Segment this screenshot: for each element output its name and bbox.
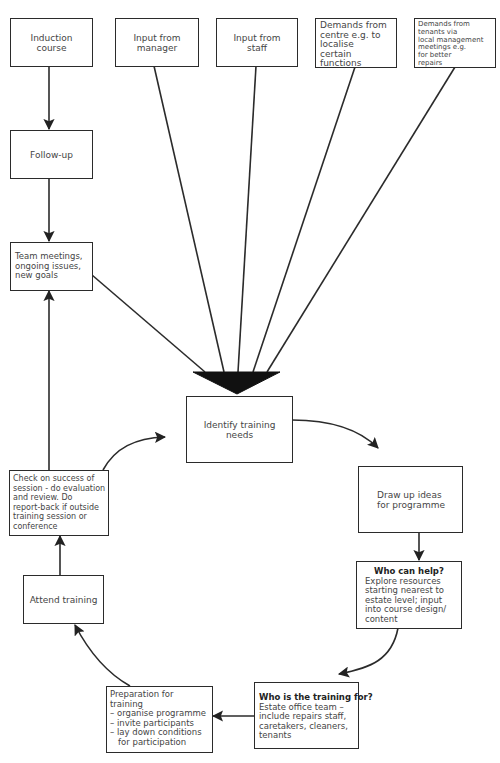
followup-line-1: Follow-up bbox=[30, 150, 73, 160]
box-input-from-staff: Input from staff bbox=[216, 18, 298, 67]
box-who-can-help: Who can help? Explore resources starting… bbox=[356, 561, 462, 629]
induction-line-1: Induction bbox=[31, 33, 73, 43]
line-manager-to-funnel bbox=[154, 66, 224, 372]
draw-line-2: for programme bbox=[377, 500, 445, 510]
induction-line-2: course bbox=[36, 43, 66, 53]
centre-line-5: functions bbox=[320, 59, 392, 69]
identify-line-2: needs bbox=[226, 430, 253, 440]
arrow-whohelp-to-whofor bbox=[339, 628, 398, 674]
arrow-identify-to-draw bbox=[292, 420, 378, 448]
box-who-is-training-for: Who is the training for? Estate office t… bbox=[254, 682, 359, 749]
box-draw-up-ideas: Draw up ideas for programme bbox=[358, 466, 463, 533]
check-line-1: Check on success of bbox=[13, 474, 105, 484]
check-line-3: and review. Do bbox=[13, 493, 105, 503]
check-line-4: report-back if outside bbox=[13, 503, 105, 513]
line-tenants-to-funnel bbox=[267, 67, 455, 372]
draw-line-1: Draw up ideas bbox=[377, 490, 442, 500]
team-line-3: new goals bbox=[15, 271, 88, 281]
box-attend-training: Attend training bbox=[23, 575, 104, 624]
box-demands-from-tenants: Demands from tenants via local managemen… bbox=[414, 18, 496, 68]
box-follow-up: Follow-up bbox=[10, 130, 93, 179]
funnel-triangle bbox=[193, 372, 280, 394]
tenants-line-6: repairs bbox=[418, 60, 492, 68]
arrow-check-to-identify bbox=[103, 437, 165, 470]
whohelp-line-5: content bbox=[365, 615, 453, 625]
line-team-to-funnel bbox=[92, 275, 205, 372]
check-line-5: training session or bbox=[13, 512, 105, 522]
check-line-2: session - do evaluation bbox=[13, 484, 105, 494]
box-induction-course: Induction course bbox=[10, 18, 93, 67]
connector-layer bbox=[0, 0, 500, 763]
arrow-preparation-to-attend bbox=[75, 625, 130, 686]
line-staff-to-funnel bbox=[238, 66, 256, 372]
box-demands-from-centre: Demands from centre e.g. to localise cer… bbox=[315, 18, 397, 68]
staff-line-2: staff bbox=[247, 43, 267, 53]
box-preparation-for-training: Preparation for training – organise prog… bbox=[106, 686, 213, 753]
attend-line-1: Attend training bbox=[30, 595, 98, 605]
whofor-line-4: tenants bbox=[259, 731, 354, 741]
box-input-from-manager: Input from manager bbox=[115, 18, 199, 67]
manager-line-2: manager bbox=[137, 43, 177, 53]
identify-line-1: Identify training bbox=[204, 420, 276, 430]
manager-line-1: Input from bbox=[133, 33, 180, 43]
line-centre-to-funnel bbox=[253, 67, 355, 372]
box-check-on-success: Check on success of session - do evaluat… bbox=[9, 470, 109, 536]
box-identify-training-needs: Identify training needs bbox=[186, 396, 293, 463]
preparation-line-6: for participation bbox=[110, 738, 209, 748]
box-team-meetings: Team meetings, ongoing issues, new goals bbox=[10, 242, 93, 291]
check-line-6: conference bbox=[13, 522, 105, 532]
staff-line-1: Input from bbox=[233, 33, 280, 43]
